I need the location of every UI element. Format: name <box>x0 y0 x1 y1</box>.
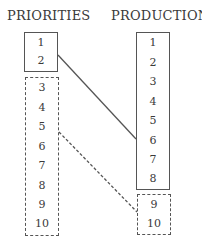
connector-lines <box>0 0 202 252</box>
dashed-connector <box>59 132 137 212</box>
solid-connector <box>58 55 136 139</box>
